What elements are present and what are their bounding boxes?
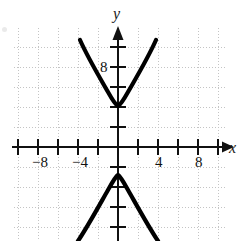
y-axis — [113, 26, 124, 241]
x-tick-label-4: 4 — [155, 155, 163, 170]
y-axis-label: y — [113, 6, 120, 22]
coordinate-plot — [0, 0, 246, 241]
grid-horizontal-lines — [14, 47, 226, 227]
x-tick-label-8: 8 — [195, 155, 203, 170]
x-axis — [12, 142, 234, 153]
y-tick-label-8: 8 — [100, 60, 108, 75]
graph-figure: y x −8 −4 4 8 8 — [0, 0, 246, 241]
x-tick-label-minus-8: −8 — [32, 155, 48, 170]
x-tick-label-minus-4: −4 — [72, 155, 88, 170]
x-axis-label: x — [229, 140, 236, 156]
